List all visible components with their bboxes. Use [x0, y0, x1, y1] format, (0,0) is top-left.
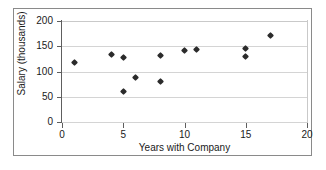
y-tick-label: 50	[42, 92, 53, 102]
x-tick-label: 5	[111, 130, 135, 140]
data-point	[156, 78, 163, 85]
gridline-y	[62, 72, 307, 73]
x-tick-mark	[62, 123, 63, 128]
scatter-plot-figure: 050100150200 05101520 Salary (thousands)…	[0, 0, 326, 170]
data-point	[120, 88, 127, 95]
gridline-y	[62, 21, 307, 22]
x-tick-mark	[185, 123, 186, 128]
y-tick-label: 0	[47, 117, 53, 127]
plot-area	[62, 21, 307, 122]
gridline-y	[62, 97, 307, 98]
data-point	[156, 52, 163, 59]
x-tick-label: 15	[234, 130, 258, 140]
y-tick-label: 100	[36, 67, 53, 77]
data-point	[71, 59, 78, 66]
x-tick-mark	[246, 123, 247, 128]
x-tick-mark	[123, 123, 124, 128]
data-point	[120, 54, 127, 61]
y-axis-title: Salary (thousands)	[16, 0, 27, 114]
data-point	[242, 53, 249, 60]
plot-right-edge	[307, 20, 308, 123]
x-tick-mark	[307, 123, 308, 128]
x-tick-label: 10	[173, 130, 197, 140]
y-tick-label: 200	[36, 16, 53, 26]
data-point	[267, 32, 274, 39]
data-point	[181, 47, 188, 54]
x-tick-label: 0	[50, 130, 74, 140]
data-point	[107, 51, 114, 58]
x-axis-title: Years with Company	[62, 142, 307, 153]
y-tick-label: 150	[36, 41, 53, 51]
x-tick-label: 20	[295, 130, 319, 140]
gridline-y	[62, 122, 307, 123]
data-point	[132, 74, 139, 81]
